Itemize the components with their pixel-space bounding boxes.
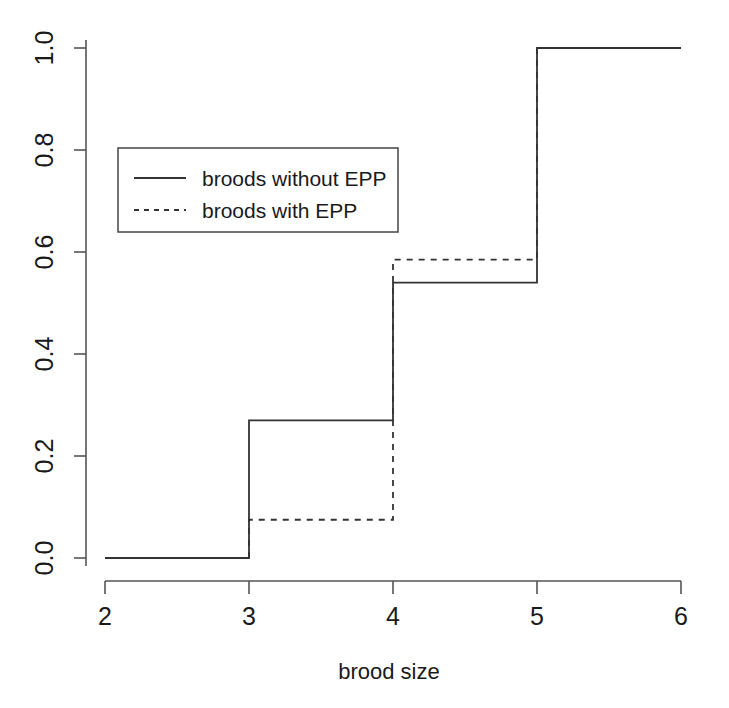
- x-tick-label-4: 4: [386, 602, 400, 630]
- x-tick-label-5: 5: [530, 602, 544, 630]
- x-tick-label-3: 3: [242, 602, 256, 630]
- y-axis: 1.0 0.8 0.6 0.4 0.2 0.0: [30, 31, 86, 576]
- y-tick-label-1.0: 1.0: [30, 31, 58, 66]
- y-tick-label-0.8: 0.8: [30, 133, 58, 168]
- y-tick-label-0.0: 0.0: [30, 541, 58, 576]
- ecdf-step-chart: 1.0 0.8 0.6 0.4 0.2 0.0 2 3 4 5 6 brood …: [0, 0, 729, 708]
- figure-panel: 1.0 0.8 0.6 0.4 0.2 0.0 2 3 4 5 6 brood …: [0, 0, 729, 708]
- legend-label-broods-with-epp: broods with EPP: [202, 199, 357, 222]
- x-tick-label-2: 2: [98, 602, 112, 630]
- x-tick-label-6: 6: [674, 602, 688, 630]
- y-tick-label-0.4: 0.4: [30, 337, 58, 372]
- x-axis-title: brood size: [338, 659, 440, 684]
- y-tick-label-0.6: 0.6: [30, 235, 58, 270]
- legend: broods without EPP broods with EPP: [118, 148, 398, 232]
- y-tick-label-0.2: 0.2: [30, 439, 58, 474]
- legend-label-broods-without-epp: broods without EPP: [202, 167, 386, 190]
- x-axis: 2 3 4 5 6 brood size: [98, 581, 688, 684]
